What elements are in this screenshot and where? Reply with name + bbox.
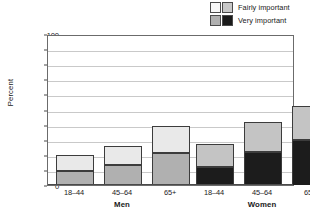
x-tick-label-men-45_64: 45–64 xyxy=(98,188,146,197)
gridline-80 xyxy=(48,66,293,67)
gridline-90 xyxy=(48,51,293,52)
gridline-50 xyxy=(48,112,293,113)
legend-swatch-men-fairly-important xyxy=(210,2,221,13)
plot-area xyxy=(47,35,294,186)
x-tick-label-women-45_64: 45–64 xyxy=(238,188,286,197)
group-label-men: Men xyxy=(62,200,182,209)
bar-segment-very-important xyxy=(104,165,142,185)
x-tick-label-women-18_44: 18–44 xyxy=(190,188,238,197)
bar-segment-fairly-important xyxy=(104,146,142,166)
bar-women-65+ xyxy=(292,106,310,185)
legend-swatch-women-fairly-important xyxy=(222,2,233,13)
legend-swatch-men-very-important xyxy=(210,15,221,26)
legend-swatch-women-very-important xyxy=(222,15,233,26)
legend-item-very-important: Very important xyxy=(210,15,290,26)
x-tick-label-women-65+: 65+ xyxy=(286,188,310,197)
bar-segment-very-important xyxy=(196,167,234,185)
gridline-70 xyxy=(48,81,293,82)
bar-segment-fairly-important xyxy=(152,126,190,153)
bar-men-18_44 xyxy=(56,155,94,185)
x-axis-line xyxy=(48,184,293,185)
bar-men-45_64 xyxy=(104,146,142,185)
legend-label-very-important: Very important xyxy=(238,15,286,26)
bar-segment-very-important xyxy=(244,152,282,185)
chart-container: Fairly important Very important Percent … xyxy=(0,0,310,224)
bar-segment-very-important xyxy=(152,153,190,185)
bar-segment-very-important xyxy=(292,140,310,185)
legend-label-fairly-important: Fairly important xyxy=(238,2,290,13)
x-tick-label-men-65+: 65+ xyxy=(146,188,194,197)
gridline-60 xyxy=(48,96,293,97)
chart-legend: Fairly important Very important xyxy=(210,2,290,26)
bar-women-18_44 xyxy=(196,144,234,185)
group-label-women: Women xyxy=(202,200,310,209)
x-tick-label-men-18_44: 18–44 xyxy=(50,188,98,197)
bar-segment-fairly-important xyxy=(196,144,234,167)
legend-item-fairly-important: Fairly important xyxy=(210,2,290,13)
bar-segment-fairly-important xyxy=(292,106,310,139)
bar-men-65+ xyxy=(152,126,190,185)
bar-segment-very-important xyxy=(56,171,94,185)
bar-women-45_64 xyxy=(244,122,282,185)
bar-segment-fairly-important xyxy=(56,155,94,172)
y-axis-title: Percent xyxy=(6,63,15,123)
bar-segment-fairly-important xyxy=(244,122,282,152)
